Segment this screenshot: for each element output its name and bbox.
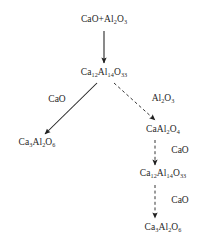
node-calcium-aluminate: CaAl2O4 xyxy=(146,125,180,135)
node-mayenite-upper: Ca12Al14O33 xyxy=(81,68,128,78)
node-tricalcium-aluminate-left: Ca3Al2O6 xyxy=(18,138,55,148)
edge-label-cao-lower: CaO xyxy=(171,196,188,206)
node-tricalcium-aluminate-bottom: Ca3Al2O6 xyxy=(144,223,181,233)
edge-layer xyxy=(0,0,209,248)
node-mayenite-lower: Ca12Al14O33 xyxy=(140,169,187,179)
arrow-mayenite-to-calcium-aluminate xyxy=(114,83,155,120)
edge-label-alumina: Al2O3 xyxy=(152,94,175,104)
edge-label-cao-left: CaO xyxy=(48,95,65,105)
node-reactants: CaO+Al2O3 xyxy=(81,15,127,25)
edge-label-cao-middle: CaO xyxy=(171,146,188,156)
arrow-mayenite-to-c3a xyxy=(45,83,97,134)
reaction-pathway-diagram: CaO+Al2O3Ca12Al14O33Ca3Al2O6CaAl2O4Ca12A… xyxy=(0,0,209,248)
